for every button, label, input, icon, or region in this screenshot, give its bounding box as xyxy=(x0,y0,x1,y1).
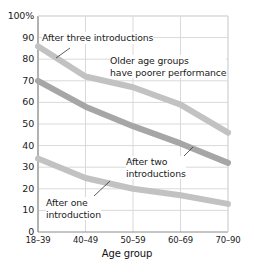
annotation-older-age-groups: Older age groups have poorer performance xyxy=(110,55,226,78)
y-tick-label: 80 xyxy=(0,54,34,64)
x-tick-label: 18–39 xyxy=(16,235,60,245)
y-tick-label: 40 xyxy=(0,141,34,151)
y-tick-label: 100% xyxy=(0,11,34,21)
x-tick-label: 40–49 xyxy=(64,235,108,245)
y-tick-label: 10 xyxy=(0,205,34,215)
leader-line-after-three xyxy=(56,48,70,58)
x-tick-label: 60–69 xyxy=(159,235,203,245)
chart-container: 0102030405060708090100% 18–3940–4950–596… xyxy=(0,0,254,273)
x-tick-label: 70–90 xyxy=(206,235,250,245)
y-tick-label: 50 xyxy=(0,119,34,129)
x-tick-label: 50–59 xyxy=(111,235,155,245)
y-tick-label: 30 xyxy=(0,162,34,172)
annotation-after-one: After one introduction xyxy=(46,197,101,220)
x-axis-title: Age group xyxy=(0,248,254,259)
annotation-after-two: After two introductions xyxy=(126,156,186,179)
annotation-after-three: After three introductions xyxy=(42,32,153,44)
y-tick-label: 20 xyxy=(0,184,34,194)
y-tick-label: 60 xyxy=(0,97,34,107)
y-tick-label: 90 xyxy=(0,33,34,43)
y-tick-label: 70 xyxy=(0,76,34,86)
